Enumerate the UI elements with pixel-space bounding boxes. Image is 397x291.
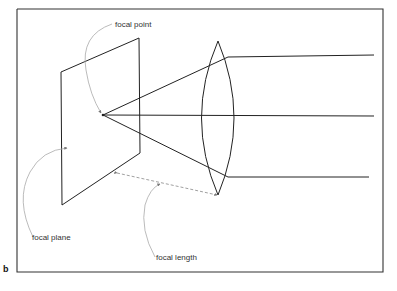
focal-length-label: focal length [156, 253, 197, 262]
focal-point-leader [85, 24, 112, 113]
focal-length-arrow [117, 173, 217, 195]
ray-bottom [103, 115, 369, 177]
ray-middle [103, 115, 374, 116]
lens-diagram: focal point focal plane focal length b [0, 0, 397, 291]
focal-length-leader [144, 184, 160, 257]
focal-plane-label: focal plane [32, 233, 71, 242]
panel-label: b [3, 264, 9, 274]
focal-plane-leader [23, 148, 67, 237]
focal-point-dot [102, 114, 105, 117]
ray-top [103, 55, 374, 115]
focal-plane-shape [61, 38, 140, 205]
figure-frame [17, 9, 383, 272]
focal-point-label: focal point [115, 20, 152, 29]
